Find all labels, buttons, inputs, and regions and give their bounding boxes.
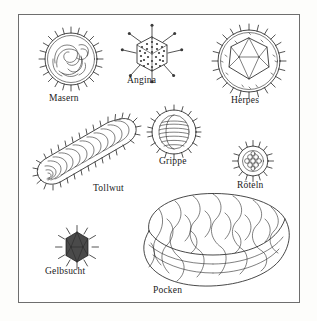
figure-grippe [145, 103, 203, 161]
roeteln-spikes [233, 141, 274, 182]
herpes-icosahedral-edges [229, 38, 269, 79]
masern-drawing [35, 23, 107, 95]
roeteln-drawing [229, 137, 277, 185]
plate-frame: Masern [18, 14, 300, 303]
figure-gelbsucht [53, 223, 101, 271]
caption-angina: Angina [127, 75, 156, 85]
pocken-tubules [149, 194, 283, 281]
roeteln-core [243, 151, 264, 172]
illustration-plate: Masern [0, 0, 317, 321]
figure-roeteln [229, 137, 277, 185]
caption-grippe: Grippe [159, 156, 187, 166]
grippe-core [159, 115, 189, 149]
masern-spikes [39, 27, 103, 91]
figure-tollwut [27, 111, 149, 197]
caption-tollwut: Tollwut [93, 183, 124, 193]
caption-pocken: Pocken [153, 285, 182, 295]
gelbsucht-drawing [53, 223, 101, 271]
figure-masern [35, 23, 107, 95]
caption-masern: Masern [49, 93, 79, 103]
herpes-drawing [209, 21, 289, 101]
tollwut-drawing [27, 111, 149, 197]
caption-herpes: Herpes [231, 95, 259, 105]
masern-nucleocapsid [53, 45, 89, 77]
pocken-body [144, 193, 289, 286]
grippe-drawing [145, 103, 203, 161]
caption-gelbsucht: Gelbsucht [45, 266, 85, 276]
figure-herpes [209, 21, 289, 101]
